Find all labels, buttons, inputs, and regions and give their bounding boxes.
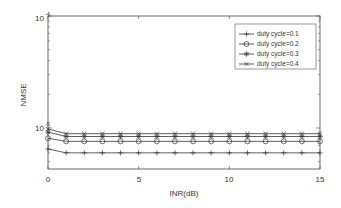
svg-text:-4: -4 [45, 11, 50, 17]
legend-label-1: duty cycle=0.1 [257, 30, 299, 38]
legend: duty cycle=0.1 duty cycle=0.2 duty cycle… [235, 24, 316, 69]
legend-label-4: duty cycle=0.4 [257, 60, 299, 68]
nmse-vs-inr-chart: 10 -4 10 -5 0 5 10 15 INR(dB) NMSE duty … [0, 0, 341, 208]
y-axis-label: NMSE [19, 83, 28, 106]
x-tick-label-0: 0 [46, 175, 51, 184]
legend-label-2: duty cycle=0.2 [257, 40, 299, 48]
legend-label-3: duty cycle=0.3 [257, 50, 299, 58]
x-tick-label-10: 10 [225, 175, 234, 184]
x-tick-label-15: 15 [316, 175, 325, 184]
svg-text:10: 10 [35, 14, 44, 23]
svg-text:10: 10 [35, 124, 44, 133]
svg-text:-5: -5 [45, 121, 50, 127]
x-axis-label: INR(dB) [170, 189, 199, 198]
x-tick-label-5: 5 [137, 175, 142, 184]
